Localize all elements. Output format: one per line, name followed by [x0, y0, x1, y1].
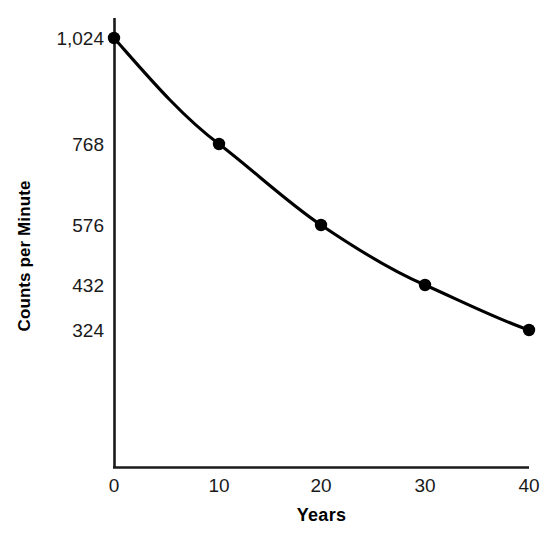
y-tick-label-1024: 1,024	[56, 29, 104, 48]
y-tick-label-432: 432	[72, 276, 104, 295]
x-axis-title: Years	[114, 505, 529, 526]
decay-line-chart: 1,024 768 576 432 324 0 10 20 30 40 Coun…	[0, 0, 550, 537]
x-tick-label-10: 10	[208, 476, 229, 495]
y-tick-label-768: 768	[72, 135, 104, 154]
data-point-0yr	[108, 32, 120, 44]
x-tick-label-40: 40	[518, 476, 539, 495]
x-tick-label-20: 20	[310, 476, 331, 495]
y-tick-label-576: 576	[72, 216, 104, 235]
y-tick-label-324: 324	[72, 321, 104, 340]
data-point-markers	[108, 32, 535, 336]
x-tick-label-30: 30	[414, 476, 435, 495]
data-point-40yr	[523, 324, 535, 336]
data-point-10yr	[213, 138, 225, 150]
x-tick-label-0: 0	[109, 476, 120, 495]
data-point-20yr	[315, 219, 327, 231]
y-axis-title: Counts per Minute	[15, 146, 35, 366]
data-line-series	[114, 38, 529, 330]
data-point-30yr	[419, 279, 431, 291]
